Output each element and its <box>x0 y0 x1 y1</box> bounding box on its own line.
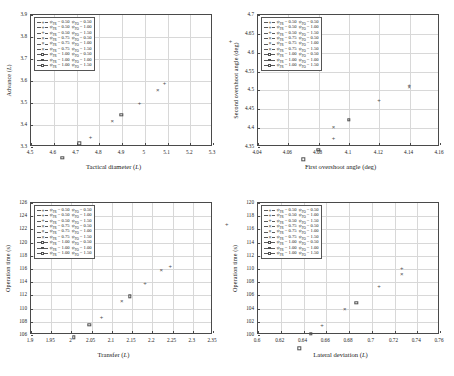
x-tick-label: 0.68 <box>343 337 352 343</box>
y-axis-tick <box>258 128 260 129</box>
x-tick-label: 4.8 <box>95 149 101 155</box>
legend-marker <box>264 252 275 255</box>
y-tick-label: 3.7 <box>0 55 27 61</box>
gridline-vertical <box>395 203 396 333</box>
y-tick-label: 122 <box>0 225 27 231</box>
y-tick-label: 126 <box>0 199 27 205</box>
legend-marker <box>264 59 275 62</box>
x-tick-label: 5 <box>142 149 145 155</box>
data-point-square <box>128 294 131 297</box>
y-tick-label: 116 <box>227 225 254 231</box>
y-tick-label: 100 <box>227 331 254 337</box>
y-tick-label: 4.5 <box>227 86 254 92</box>
data-point-plus: + <box>168 263 172 269</box>
legend-marker <box>37 59 48 62</box>
x-tick-label: 4.04 <box>252 149 261 155</box>
chart-panel: Operation time (s)Lateral deviation (L)+… <box>227 188 454 376</box>
legend-square-icon <box>268 64 271 67</box>
y-axis-tick <box>258 243 260 244</box>
x-axis-tick <box>288 143 289 145</box>
legend-square-icon <box>268 53 271 56</box>
gridline-vertical <box>326 203 327 333</box>
legend-square-icon <box>41 64 44 67</box>
data-point-square <box>347 118 350 121</box>
y-axis-tick <box>258 53 260 54</box>
y-axis-tick <box>258 203 260 204</box>
y-axis-tick <box>31 282 33 283</box>
legend-item: ψFR = 1.00 ψFO = 1.50 <box>264 251 318 256</box>
legend-marker <box>37 252 48 255</box>
y-axis-tick <box>31 216 33 217</box>
x-axis-label: Tactical diameter (L) <box>0 163 227 170</box>
x-tick-label: 4.5 <box>27 149 33 155</box>
x-tick-label: 0.74 <box>412 337 421 343</box>
x-tick-label: 2 <box>69 337 72 343</box>
x-axis-tick <box>51 331 52 333</box>
chart-panel: Second overshoot angle (deg)First oversh… <box>227 0 454 188</box>
y-tick-label: 108 <box>0 318 27 324</box>
x-axis-tick <box>99 143 100 145</box>
x-axis-tick <box>213 331 214 333</box>
y-tick-label: 120 <box>227 199 254 205</box>
gridline-horizontal <box>31 269 211 270</box>
y-tick-label: 3.4 <box>0 121 27 127</box>
x-axis-tick <box>410 143 411 145</box>
legend-marker: × <box>37 235 48 240</box>
x-tick-label: 5.3 <box>209 149 215 155</box>
y-tick-label: 4.6 <box>227 49 254 55</box>
y-tick-label: 3.9 <box>0 11 27 17</box>
legend-square-icon <box>41 59 44 62</box>
gridline-horizontal <box>258 295 438 296</box>
x-tick-label: 2.35 <box>207 337 216 343</box>
data-point-square <box>309 332 312 335</box>
legend-square-icon <box>41 241 44 244</box>
y-axis-tick <box>31 15 33 16</box>
x-tick-label: 4.12 <box>374 149 383 155</box>
gridline-horizontal <box>258 72 438 73</box>
x-tick-label: 1.95 <box>46 337 55 343</box>
y-axis-tick <box>258 15 260 16</box>
data-point-square <box>88 323 91 326</box>
y-tick-label: 3.8 <box>0 33 27 39</box>
legend-square-icon <box>268 252 271 255</box>
y-tick-label: 3.6 <box>0 77 27 83</box>
legend-marker: × <box>264 47 275 52</box>
data-point-square <box>72 335 75 338</box>
x-tick-label: 4.7 <box>72 149 78 155</box>
data-point-plus: + <box>377 283 381 289</box>
data-point-plus: + <box>163 80 167 86</box>
data-point-cross: × <box>156 87 160 93</box>
x-axis-tick <box>349 331 350 333</box>
y-axis-tick <box>258 109 260 110</box>
y-axis-tick <box>31 295 33 296</box>
legend-item: ψFR = 1.00 ψFO = 1.50 <box>37 63 91 68</box>
y-axis-tick <box>31 309 33 310</box>
x-tick-label: 0.64 <box>298 337 307 343</box>
legend-square-icon <box>41 53 44 56</box>
data-point-cross: × <box>160 267 164 273</box>
legend-marker <box>37 241 48 244</box>
data-point-square <box>355 301 358 304</box>
y-tick-label: 110 <box>0 305 27 311</box>
x-axis-label: First overshoot angle (deg) <box>227 163 454 170</box>
data-point-square <box>301 157 304 160</box>
gridline-vertical <box>193 203 194 333</box>
data-point-cross: × <box>343 306 347 312</box>
y-axis-tick <box>31 203 33 204</box>
legend-marker <box>37 64 48 67</box>
legend-label: ψFR = 1.00 ψFO = 1.50 <box>48 62 91 69</box>
gridline-vertical <box>349 15 350 145</box>
legend-marker <box>37 53 48 56</box>
x-tick-label: 2.25 <box>167 337 176 343</box>
y-axis-tick <box>31 125 33 126</box>
y-axis-tick <box>258 34 260 35</box>
y-tick-label: 4.7 <box>227 11 254 17</box>
legend-cross-icon: × <box>41 235 45 240</box>
data-point-plus: + <box>377 97 381 103</box>
x-tick-label: 0.62 <box>275 337 284 343</box>
y-axis-tick <box>258 282 260 283</box>
x-tick-label: 2.3 <box>189 337 195 343</box>
gridline-horizontal <box>31 282 211 283</box>
x-axis-tick <box>92 331 93 333</box>
legend-cross-icon: × <box>41 47 45 52</box>
